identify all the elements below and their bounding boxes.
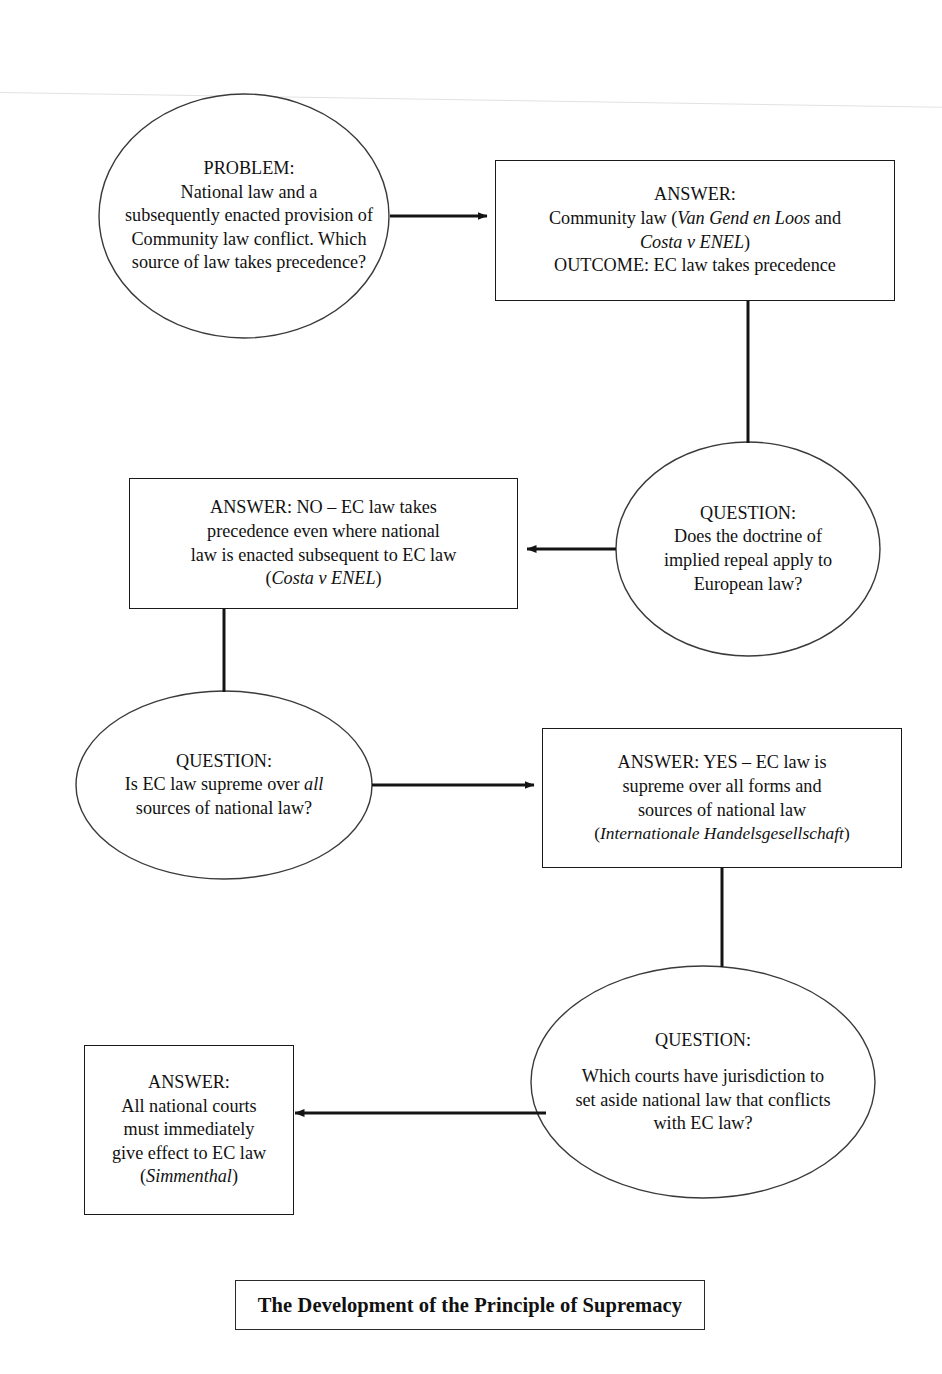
node-answer-1[interactable]: ANSWER: Community law (Van Gend en Loos …: [495, 160, 895, 301]
node-answer-2-line4: (Costa v ENEL): [134, 567, 513, 591]
node-problem-label: PROBLEM: National law and a subsequently…: [99, 157, 399, 275]
node-answer-4-line5: (Simmenthal): [89, 1165, 289, 1189]
node-answer-3-label: ANSWER: YES – EC law is supreme over all…: [543, 751, 901, 845]
node-question-2-label: QUESTION: Is EC law supreme over all sou…: [84, 750, 364, 821]
node-answer-2-label: ANSWER: NO – EC law takes precedence eve…: [130, 496, 517, 591]
node-question-3-label: QUESTION: Which courts have jurisdiction…: [536, 1029, 870, 1136]
node-answer-1-line3: Costa v ENEL): [500, 231, 890, 255]
node-question-2-line2: Is EC law supreme over all: [88, 773, 360, 797]
node-problem[interactable]: PROBLEM: National law and a subsequently…: [99, 120, 399, 312]
node-answer-2[interactable]: ANSWER: NO – EC law takes precedence eve…: [129, 478, 518, 609]
node-question-2[interactable]: QUESTION: Is EC law supreme over all sou…: [84, 745, 364, 825]
node-question-1[interactable]: QUESTION: Does the doctrine of implied r…: [630, 490, 866, 608]
node-question-3[interactable]: QUESTION: Which courts have jurisdiction…: [536, 1020, 870, 1145]
node-question-1-label: QUESTION: Does the doctrine of implied r…: [630, 502, 866, 597]
node-answer-3[interactable]: ANSWER: YES – EC law is supreme over all…: [542, 728, 902, 868]
node-answer-3-line4: (Internationale Handelsgesellschaft): [547, 822, 897, 845]
diagram-title-box: The Development of the Principle of Supr…: [235, 1280, 705, 1330]
node-answer-1-label: ANSWER: Community law (Van Gend en Loos …: [496, 183, 894, 278]
node-answer-4[interactable]: ANSWER: All national courts must immedia…: [84, 1045, 294, 1215]
diagram-title: The Development of the Principle of Supr…: [258, 1294, 682, 1317]
node-answer-1-line2: Community law (Van Gend en Loos and: [500, 207, 890, 231]
flowchart-page: PROBLEM: National law and a subsequently…: [0, 0, 942, 1374]
node-answer-4-label: ANSWER: All national courts must immedia…: [85, 1071, 293, 1189]
